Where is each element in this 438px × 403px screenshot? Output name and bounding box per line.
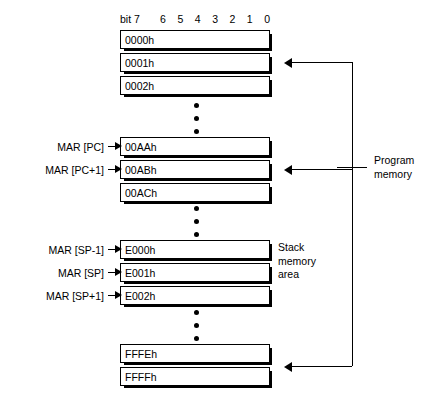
memory-cell-address: 00AAh <box>125 141 157 152</box>
bus-branch-top <box>292 62 352 63</box>
memory-cell: FFFFh <box>120 367 270 386</box>
memory-cell-address: 0002h <box>125 80 154 91</box>
mar-arrow-pc <box>108 142 122 151</box>
mar-arrow-sp-minus-1 <box>108 245 122 254</box>
arrow-head-icon <box>115 245 122 253</box>
stack-memory-area-label: Stack memory area <box>278 241 316 282</box>
ellipsis-dot <box>194 310 199 315</box>
memory-cell: 0000h <box>120 30 270 49</box>
program-memory-bus-line <box>352 62 353 366</box>
memory-cell: 00ACh <box>120 183 270 202</box>
vertical-ellipsis <box>191 310 202 341</box>
arrow-head-icon <box>115 268 122 276</box>
memory-map-diagram: bit 7 6 5 4 3 2 1 0 0000h 0001h 0002h 00… <box>0 0 438 403</box>
memory-cell-address: E001h <box>125 267 155 278</box>
vertical-ellipsis <box>191 206 202 237</box>
mar-label-pc-plus-1: MAR [PC+1] <box>18 163 104 177</box>
ellipsis-dot <box>194 336 199 341</box>
memory-cell: E001h <box>120 263 270 282</box>
ellipsis-dot <box>194 103 199 108</box>
bus-branch-bottom <box>292 366 352 367</box>
memory-cell-address: E002h <box>125 290 155 301</box>
mar-label-sp-plus-1: MAR [SP+1] <box>18 289 104 303</box>
memory-cell: 00ABh <box>120 160 270 179</box>
mar-label-sp: MAR [SP] <box>18 266 104 280</box>
arrow-head-icon <box>115 142 122 150</box>
memory-cell-address: E000h <box>125 244 155 255</box>
memory-cell-address: 0001h <box>125 57 154 68</box>
program-memory-label-connector <box>337 167 367 168</box>
program-memory-label: Program memory <box>374 154 414 181</box>
arrow-head-icon <box>284 58 292 68</box>
ellipsis-dot <box>194 323 199 328</box>
bit-label-7: bit 7 <box>120 13 140 25</box>
memory-cell-address: 00ABh <box>125 164 157 175</box>
arrow-head-icon <box>115 165 122 173</box>
memory-cell-address: FFFEh <box>125 348 157 359</box>
bit-label-1: 1 <box>247 13 253 25</box>
ellipsis-dot <box>194 129 199 134</box>
bit-label-2: 2 <box>229 13 235 25</box>
ellipsis-dot <box>194 219 199 224</box>
vertical-ellipsis <box>191 103 202 134</box>
mar-arrow-sp-plus-1 <box>108 291 122 300</box>
memory-cell-address: 00ACh <box>125 187 157 198</box>
mar-label-sp-minus-1: MAR [SP-1] <box>18 243 104 257</box>
ellipsis-dot <box>194 232 199 237</box>
ellipsis-dot <box>194 116 199 121</box>
memory-cell: E002h <box>120 286 270 305</box>
mar-label-pc: MAR [PC] <box>18 140 104 154</box>
bit-label-5: 5 <box>177 13 183 25</box>
bit-label-3: 3 <box>212 13 218 25</box>
memory-cell: 00AAh <box>120 137 270 156</box>
mar-arrow-pc-plus-1 <box>108 165 122 174</box>
memory-cell-address: FFFFh <box>125 371 157 382</box>
memory-cell-address: 0000h <box>125 34 154 45</box>
memory-cell: FFFEh <box>120 344 270 363</box>
bit-header: bit 7 6 5 4 3 2 1 0 <box>120 12 270 26</box>
mar-arrow-sp <box>108 268 122 277</box>
arrow-head-icon <box>115 291 122 299</box>
memory-cell: 0001h <box>120 53 270 72</box>
bit-label-0: 0 <box>264 13 270 25</box>
bit-label-4: 4 <box>195 13 201 25</box>
arrow-head-icon <box>284 165 292 175</box>
memory-cell: 0002h <box>120 76 270 95</box>
arrow-head-icon <box>284 362 292 372</box>
memory-cell: E000h <box>120 240 270 259</box>
bus-branch-program <box>292 169 352 170</box>
ellipsis-dot <box>194 206 199 211</box>
bit-label-6: 6 <box>160 13 166 25</box>
